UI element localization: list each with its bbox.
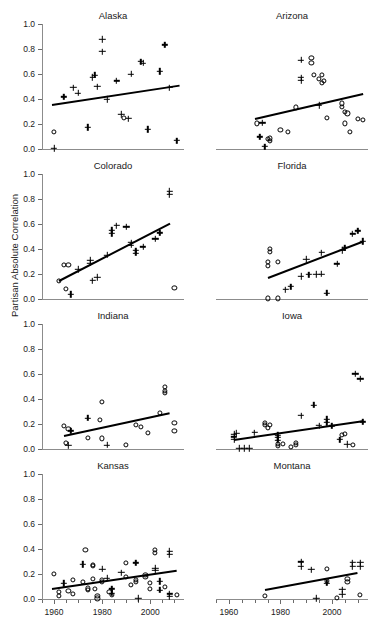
data-point-circle (280, 442, 285, 447)
data-point-plus (94, 83, 100, 89)
data-point-plus (257, 134, 263, 140)
panel-florida: Florida (216, 160, 368, 299)
y-axis-line (42, 24, 43, 149)
y-tick-label: 0.2 (23, 119, 35, 129)
y-tick-label: 0.4 (23, 94, 35, 104)
y-tick (38, 524, 42, 525)
x-tick-minor (255, 600, 256, 603)
y-tick (38, 549, 42, 550)
x-axis-line (216, 149, 368, 150)
data-point-plus (349, 563, 355, 569)
x-tick (54, 600, 55, 604)
data-point-plus (357, 563, 363, 569)
y-tick-label: 0.2 (23, 419, 35, 429)
data-point-circle (153, 550, 158, 555)
x-tick (280, 600, 281, 604)
y-tick-label: 0.4 (23, 244, 35, 254)
data-point-plus (80, 561, 86, 567)
data-point-circle (172, 428, 177, 433)
y-tick-label: 1.0 (23, 19, 35, 29)
data-point-plus (89, 277, 95, 283)
x-tick-minor (126, 600, 127, 603)
panel-alaska: Alaska0.00.20.40.60.81.0 (42, 10, 184, 149)
data-point-plus (354, 228, 360, 234)
y-tick-label: 0.6 (23, 369, 35, 379)
data-point-plus (298, 273, 304, 279)
y-tick (38, 424, 42, 425)
y-tick (38, 49, 42, 50)
data-point-circle (309, 60, 314, 65)
data-point-plus (85, 124, 91, 130)
y-tick (38, 124, 42, 125)
panel-montana: Montana196019802000 (216, 460, 368, 599)
x-tick-minor (174, 600, 175, 603)
trend-line (63, 412, 169, 437)
y-tick (38, 499, 42, 500)
data-point-plus (298, 563, 304, 569)
x-tick-minor (66, 600, 67, 603)
data-point-plus (259, 120, 265, 126)
y-tick (38, 99, 42, 100)
y-tick (38, 149, 42, 150)
data-point-plus (152, 236, 158, 242)
data-point-plus (157, 578, 163, 584)
data-point-plus (318, 271, 324, 277)
data-point-plus (174, 137, 180, 143)
y-tick-label: 1.0 (23, 319, 35, 329)
data-point-circle (145, 430, 150, 435)
data-point-plus (145, 126, 151, 132)
y-tick-label: 0.8 (23, 344, 35, 354)
data-point-plus (99, 36, 105, 42)
x-tick (150, 600, 151, 604)
data-point-plus (85, 415, 91, 421)
data-point-plus (308, 566, 314, 572)
y-tick (38, 574, 42, 575)
y-tick-label: 0.6 (23, 519, 35, 529)
data-point-plus (166, 593, 172, 599)
x-axis-line (216, 299, 368, 300)
data-point-plus (162, 42, 168, 48)
data-point-plus (113, 78, 119, 84)
y-tick-label: 0.6 (23, 219, 35, 229)
data-point-circle (97, 417, 102, 422)
data-point-circle (85, 435, 90, 440)
trend-line (254, 93, 363, 120)
panel-kansas: Kansas0.00.20.40.60.81.0196019802000 (42, 460, 184, 599)
data-point-plus (298, 57, 304, 63)
y-axis-title: Partisan Absolute Correlation (9, 111, 20, 401)
data-point-plus (109, 586, 115, 592)
y-tick-label: 0.2 (23, 269, 35, 279)
data-point-circle (342, 121, 347, 126)
data-point-circle (286, 129, 291, 134)
plot-area (216, 324, 368, 449)
data-point-circle (265, 264, 270, 269)
panel-title: Florida (216, 160, 368, 171)
figure-scatter-matrix: Partisan Absolute Correlation Alaska0.00… (0, 0, 374, 618)
panel-title: Colorado (42, 160, 184, 171)
data-point-circle (100, 436, 105, 441)
y-tick (38, 324, 42, 325)
y-tick (38, 274, 42, 275)
x-tick-label: 1980 (93, 607, 112, 617)
data-point-circle (268, 139, 273, 144)
plot-area: 0.00.20.40.60.81.0 (42, 24, 184, 149)
data-point-plus (75, 90, 81, 96)
x-tick-minor (242, 600, 243, 603)
x-tick (332, 600, 333, 604)
data-point-circle (85, 587, 90, 592)
data-point-plus (233, 430, 239, 436)
data-point-circle (324, 567, 329, 572)
data-point-plus (92, 72, 98, 78)
data-point-plus (298, 77, 304, 83)
data-point-plus (306, 271, 312, 277)
data-point-circle (311, 72, 316, 77)
x-tick-minor (78, 600, 79, 603)
data-point-plus (60, 94, 66, 100)
y-tick-label: 0.4 (23, 544, 35, 554)
y-tick-label: 0.0 (23, 444, 35, 454)
x-tick-label: 1960 (45, 607, 64, 617)
plot-area: 0.00.20.40.60.81.0196019802000 (42, 474, 184, 599)
x-tick (229, 600, 230, 604)
panel-title: Indiana (42, 310, 184, 321)
plot-area (216, 174, 368, 299)
